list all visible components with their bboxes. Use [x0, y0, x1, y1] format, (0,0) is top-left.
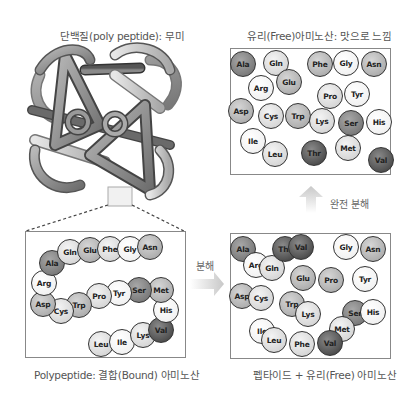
amino-acid-label: Glu: [296, 274, 309, 283]
full-decompose-label: 완전 분해: [330, 196, 369, 211]
amino-acid-label: His: [160, 306, 173, 315]
amino-acid-label: Val: [375, 156, 387, 165]
amino-acid-label: Tyr: [351, 90, 363, 99]
amino-acid-label: Ala: [237, 60, 250, 69]
amino-acid-val: Val: [317, 330, 343, 356]
amino-acid-label: Asn: [142, 243, 157, 252]
amino-acid-label: Leu: [267, 336, 282, 345]
amino-acid-pro: Pro: [317, 83, 343, 109]
amino-acid-val: Val: [368, 147, 394, 173]
amino-acid-glu: Glu: [290, 265, 316, 291]
amino-acid-arg: Arg: [248, 75, 274, 101]
amino-acid-label: Asp: [233, 107, 248, 116]
amino-acid-label: Ala: [237, 245, 250, 254]
amino-acid-pro: Pro: [318, 267, 344, 293]
amino-acid-label: Ser: [132, 286, 146, 295]
amino-acid-label: Met: [153, 286, 169, 295]
amino-acid-label: Gly: [339, 243, 352, 252]
amino-acid-thr: Thr: [301, 140, 327, 166]
amino-acid-lys: Lys: [295, 301, 321, 327]
amino-acid-met: Met: [335, 135, 361, 161]
amino-acid-label: Thr: [307, 149, 321, 158]
amino-acid-label: Gln: [269, 59, 282, 68]
amino-acid-ser: Ser: [338, 110, 364, 136]
decompose-label: 분해: [196, 258, 214, 273]
amino-acid-label: Asn: [365, 245, 380, 254]
amino-acid-label: Cys: [254, 294, 268, 303]
amino-acid-asn: Asn: [360, 236, 386, 262]
amino-acid-val: Val: [288, 234, 314, 260]
amino-acid-his: His: [360, 299, 386, 325]
amino-acid-label: Tyr: [113, 289, 125, 298]
amino-acid-asn: Asn: [361, 51, 387, 77]
amino-acid-label: Cys: [54, 307, 68, 316]
amino-acid-label: Pro: [323, 92, 337, 101]
amino-acid-trp: Trp: [285, 103, 311, 129]
amino-acid-asn: Asn: [137, 234, 163, 260]
amino-acid-label: Gly: [339, 59, 352, 68]
amino-acid-label: Ser: [344, 119, 358, 128]
amino-acid-label: Asp: [35, 300, 50, 309]
amino-acid-ala: Ala: [230, 51, 256, 77]
amino-acid-label: Pro: [324, 276, 338, 285]
amino-acid-tyr: Tyr: [352, 266, 378, 292]
amino-acid-cys: Cys: [258, 103, 284, 129]
amino-acid-lys: Lys: [309, 108, 335, 134]
amino-acid-label: Ile: [117, 338, 127, 347]
amino-acid-label: Ala: [46, 259, 59, 268]
full-decompose-arrow-icon: [299, 186, 323, 213]
amino-acid-label: Pro: [92, 292, 106, 301]
amino-acid-tyr: Tyr: [344, 81, 370, 107]
amino-acid-label: Leu: [94, 340, 109, 349]
amino-acid-label: Met: [340, 144, 356, 153]
amino-acid-phe: Phe: [289, 331, 315, 357]
amino-acid-label: Phe: [102, 245, 117, 254]
amino-acid-gly: Gly: [333, 234, 359, 260]
amino-acid-glu: Glu: [276, 69, 302, 95]
amino-acid-label: Val: [324, 339, 336, 348]
amino-acid-label: Lys: [301, 310, 314, 319]
amino-acid-label: Val: [155, 326, 167, 335]
amino-acid-label: Trp: [292, 112, 305, 121]
amino-acid-gly: Gly: [333, 50, 359, 76]
decompose-arrow-icon: [190, 272, 224, 296]
amino-acid-label: Asn: [366, 60, 381, 69]
amino-acid-phe: Phe: [307, 51, 333, 77]
amino-acid-label: Phe: [294, 340, 309, 349]
amino-acid-cys: Cys: [248, 285, 274, 311]
amino-acid-label: Gly: [123, 245, 136, 254]
amino-acid-his: His: [366, 109, 392, 135]
amino-acid-label: Trp: [73, 301, 86, 310]
amino-acid-label: Val: [295, 243, 307, 252]
amino-acid-label: Gln: [265, 264, 278, 273]
amino-acid-label: Ile: [248, 137, 258, 146]
amino-acid-label: Glu: [83, 246, 96, 255]
amino-acid-label: Glu: [282, 78, 295, 87]
amino-acid-asp: Asp: [228, 98, 254, 124]
amino-acid-label: Arg: [254, 84, 268, 93]
amino-acid-leu: Leu: [262, 141, 288, 167]
amino-acid-label: His: [367, 308, 380, 317]
amino-acid-label: His: [373, 118, 386, 127]
amino-acid-leu: Leu: [261, 327, 287, 353]
amino-acid-label: Arg: [37, 279, 51, 288]
amino-acid-label: Tyr: [359, 275, 371, 284]
amino-acid-label: Cys: [264, 112, 278, 121]
amino-acid-label: Lys: [315, 117, 328, 126]
amino-acid-label: Gln: [63, 248, 76, 257]
amino-acid-label: Phe: [312, 60, 327, 69]
amino-acid-label: Leu: [268, 150, 283, 159]
